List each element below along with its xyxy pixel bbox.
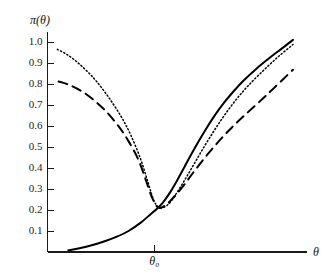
x-axis-ticks: θ₀ — [149, 245, 159, 268]
plot-svg: 1.00.90.80.70.60.50.40.30.20.1 θ₀ π(θ) θ — [0, 0, 332, 279]
y-axis-ticks: 1.00.90.80.70.60.50.40.30.20.1 — [29, 35, 54, 236]
x-tick-label: θ₀ — [149, 254, 159, 268]
y-tick-label: 0.5 — [29, 140, 43, 152]
y-tick-label: 0.2 — [29, 203, 43, 215]
curve-solid — [68, 40, 293, 250]
y-tick-label: 1.0 — [29, 35, 43, 47]
y-tick-label: 0.4 — [29, 161, 43, 173]
curves-group — [57, 40, 293, 250]
y-tick-label: 0.9 — [29, 56, 43, 68]
curve-dashed — [59, 70, 293, 208]
y-tick-label: 0.6 — [29, 119, 43, 131]
chart-figure: 1.00.90.80.70.60.50.40.30.20.1 θ₀ π(θ) θ — [0, 0, 332, 279]
y-axis-label: π(θ) — [30, 13, 50, 27]
y-tick-label: 0.1 — [29, 224, 43, 236]
x-axis-label: θ — [313, 245, 319, 259]
y-tick-label: 0.8 — [29, 77, 43, 89]
y-tick-label: 0.3 — [29, 182, 43, 194]
y-tick-label: 0.7 — [29, 98, 43, 110]
